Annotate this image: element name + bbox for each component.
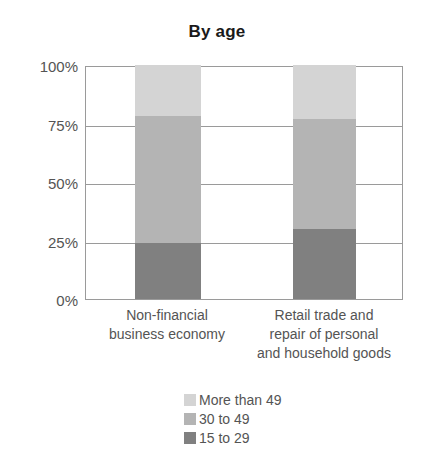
x-axis-label-line: and household goods (245, 344, 403, 363)
bar-segment-2[interactable] (135, 243, 201, 299)
legend-item-1[interactable]: 30 to 49 (184, 409, 282, 428)
y-axis: 100% 75% 50% 25% 0% (0, 66, 78, 300)
legend-swatch-icon (184, 432, 196, 444)
chart-container: By age 100% 75% 50% 25% 0% Non-financial… (0, 0, 434, 468)
plot-area (85, 66, 403, 300)
x-axis-labels: Non-financialbusiness economy Retail tra… (85, 306, 403, 386)
x-axis-label-category-0: Non-financialbusiness economy (91, 306, 243, 344)
legend-item-2[interactable]: 15 to 29 (184, 428, 282, 447)
chart-title: By age (0, 22, 434, 42)
y-tick-label-50: 50% (6, 175, 78, 192)
bar-segment-2[interactable] (293, 229, 356, 299)
x-axis-label-line: business economy (91, 325, 243, 344)
x-axis-label-line: Retail trade and (245, 306, 403, 325)
legend-swatch-icon (184, 413, 196, 425)
y-tick-label-100: 100% (6, 58, 78, 75)
legend-item-label: 30 to 49 (199, 411, 250, 427)
bar-category-1[interactable] (293, 65, 356, 299)
y-tick-label-0: 0% (6, 292, 78, 309)
legend-swatch-icon (184, 394, 196, 406)
y-tick-label-75: 75% (6, 116, 78, 133)
bar-category-0[interactable] (135, 65, 201, 299)
x-axis-label-category-1: Retail trade andrepair of personaland ho… (245, 306, 403, 363)
bar-segment-0[interactable] (293, 65, 356, 119)
bar-segment-1[interactable] (135, 116, 201, 242)
y-tick-label-25: 25% (6, 233, 78, 250)
x-axis-label-line: repair of personal (245, 325, 403, 344)
x-axis-label-line: Non-financial (91, 306, 243, 325)
bar-segment-1[interactable] (293, 119, 356, 229)
bar-segment-0[interactable] (135, 65, 201, 116)
legend-item-label: More than 49 (199, 392, 282, 408)
legend-item-0[interactable]: More than 49 (184, 390, 282, 409)
legend-item-label: 15 to 29 (199, 430, 250, 446)
legend: More than 4930 to 4915 to 29 (184, 390, 282, 447)
